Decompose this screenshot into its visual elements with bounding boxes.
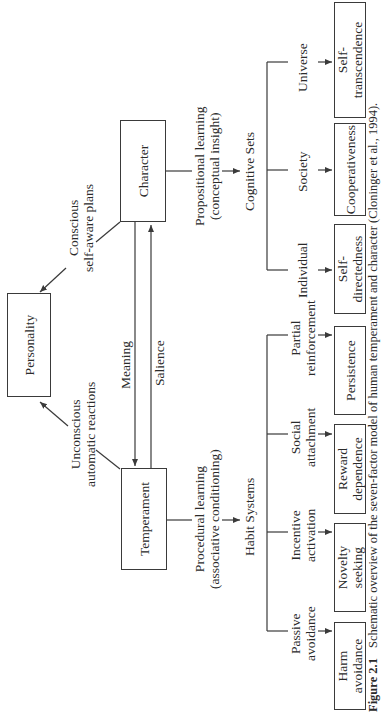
meaning-label: Meaning <box>118 340 133 390</box>
habit-systems-label: Habit Systems <box>242 477 257 557</box>
character-box: Character <box>120 120 166 222</box>
salience-label: Salience <box>152 339 167 387</box>
temperament-box: Temperament <box>121 468 167 570</box>
seven-factor-model-diagram: Personality Character Temperament Consci… <box>0 0 385 720</box>
self-directedness-box: Self- directedness <box>334 224 366 314</box>
individual-label: Individual <box>295 242 310 300</box>
conscious-label: Conscious self-aware plans <box>66 183 96 273</box>
social-attachment-label: Social attachment <box>288 407 318 468</box>
character-label: Character <box>136 145 151 197</box>
reward-dependence-box: Reward dependence <box>334 424 366 514</box>
cognitive-sets-label: Cognitive Sets <box>242 131 257 212</box>
incentive-activation-label: Incentive activation <box>288 508 318 563</box>
figure-caption: Figure 2.1Schematic overview of the seve… <box>366 103 381 712</box>
personality-box: Personality <box>7 293 51 397</box>
passive-avoidance-label: Passive avoidance <box>288 605 318 662</box>
society-label: Society <box>295 151 310 194</box>
universe-label: Universe <box>295 42 310 93</box>
personality-label: Personality <box>22 315 37 376</box>
novelty-seeking-box: Novelty seeking <box>334 523 366 612</box>
cooperativeness-box: Cooperativeness <box>334 123 366 216</box>
partial-reinforcement-label: Partial reinforcement <box>288 299 318 377</box>
procedural-learning-label: Procedural learning (associative conditi… <box>192 448 222 590</box>
figure-number: Figure 2.1 <box>366 658 380 712</box>
self-transcendence-box: Self- transcendence <box>334 2 366 118</box>
persistence-box: Persistence <box>334 326 366 415</box>
temperament-label: Temperament <box>137 482 152 556</box>
harm-avoidance-box: Harm avoidance <box>334 622 366 710</box>
propositional-learning-label: Propositional learning (conceptual insig… <box>192 105 222 227</box>
caption-text: Schematic overview of the seven-factor m… <box>366 103 380 648</box>
unconscious-label: Unconscious automatic reactions <box>68 381 98 488</box>
